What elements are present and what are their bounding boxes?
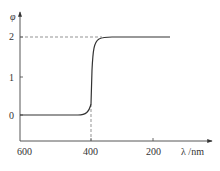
x-tick-label-600: 600 [17, 146, 32, 157]
y-tick-label-1: 1 [9, 72, 14, 83]
data-curve [20, 37, 170, 115]
x-tick-label-400: 400 [83, 146, 98, 157]
x-axis-label: λ /nm [181, 146, 204, 157]
y-axis-label: φ [10, 11, 16, 22]
x-tick-label-200: 200 [146, 146, 161, 157]
chart: φ 2 1 0 600 400 200 λ /nm [0, 0, 220, 171]
y-tick-label-0: 0 [9, 110, 14, 121]
y-tick-label-2: 2 [9, 31, 14, 42]
